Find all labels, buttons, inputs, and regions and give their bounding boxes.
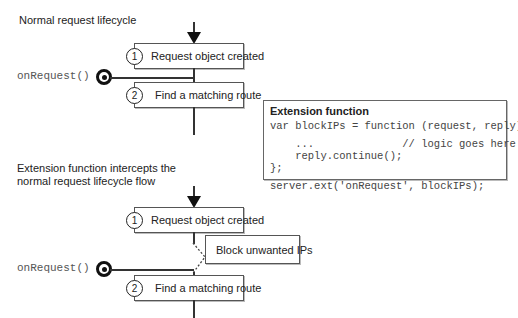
bottom-step-1-box: 1 Request object created	[134, 207, 244, 233]
code-line: var blockIPs = function (request, reply)…	[270, 120, 500, 132]
code-line: reply.continue();	[270, 150, 500, 162]
step-number-badge: 1	[126, 212, 143, 229]
top-hook-line	[110, 77, 194, 79]
intercept-box: Block unwanted IPs	[205, 235, 300, 264]
step-label: Request object created	[151, 50, 264, 62]
top-connector-line	[193, 68, 195, 82]
bottom-exit-line	[193, 300, 195, 318]
intercept-label: Block unwanted IPs	[216, 244, 313, 256]
top-exit-line	[193, 107, 195, 135]
extension-title: Extension function	[270, 105, 500, 117]
step-number-badge: 1	[126, 48, 143, 65]
bottom-hook-line	[110, 269, 194, 271]
extension-function-panel: Extension function var blockIPs = functi…	[263, 100, 507, 180]
top-step-1-box: 1 Request object created	[134, 43, 244, 69]
bottom-caption-line1: Extension function intercepts the	[17, 162, 176, 175]
bottom-hook-label: onRequest()	[17, 262, 90, 274]
bottom-caption-line2: normal request lifecycle flow	[17, 175, 176, 188]
top-step-2-box: 2 Find a matching route	[134, 82, 244, 108]
bottom-caption: Extension function intercepts the normal…	[17, 162, 176, 188]
code-line: server.ext('onRequest', blockIPs);	[270, 180, 500, 192]
code-line: ... // logic goes here	[270, 138, 500, 150]
top-caption: Normal request lifecycle	[19, 14, 136, 27]
step-label: Find a matching route	[155, 89, 261, 101]
bottom-step-2-box: 2 Find a matching route	[134, 275, 244, 301]
top-hook-label: onRequest()	[17, 70, 90, 82]
code-line: };	[270, 162, 500, 174]
step-label: Find a matching route	[155, 282, 261, 294]
step-label: Request object created	[151, 214, 264, 226]
step-number-badge: 2	[126, 87, 143, 104]
step-number-badge: 2	[126, 280, 143, 297]
